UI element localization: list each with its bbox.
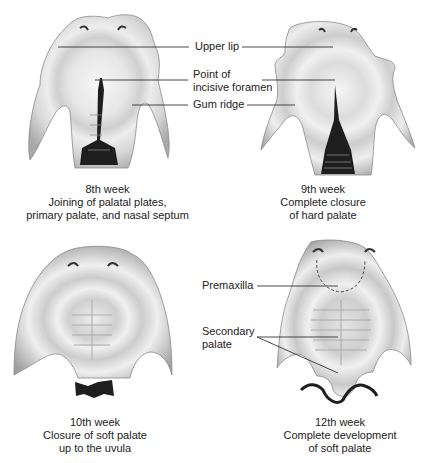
label-incisive-foramen: Point of incisive foramen — [193, 68, 272, 93]
panel-week-9: 9th week Complete closure of hard palate — [215, 0, 430, 230]
label-upper-lip: Upper lip — [195, 40, 239, 53]
label-gum-ridge: Gum ridge — [193, 98, 244, 111]
caption-week-10-title: 10th week — [0, 416, 190, 429]
caption-week-10-line3: up to the uvula — [0, 442, 190, 455]
label-secondary-palate: Secondary palate — [202, 325, 255, 350]
caption-week-12-line3: of soft palate — [255, 442, 425, 455]
panel-week-10: 10th week Closure of soft palate up to t… — [0, 230, 215, 463]
caption-week-12-line2: Complete development — [255, 429, 425, 442]
caption-week-10-line2: Closure of soft palate — [0, 429, 190, 442]
caption-week-8: 8th week Joining of palatal plates, prim… — [0, 183, 215, 222]
caption-week-12-title: 12th week — [255, 416, 425, 429]
label-incisive-foramen-line2: incisive foramen — [193, 81, 272, 94]
panel-week-8: 8th week Joining of palatal plates, prim… — [0, 0, 215, 230]
caption-week-9: 9th week Complete closure of hard palate — [233, 183, 413, 222]
label-premaxilla: Premaxilla — [202, 279, 253, 292]
label-secondary-palate-line2: palate — [202, 338, 255, 351]
caption-week-8-line2: Joining of palatal plates, — [0, 196, 215, 209]
label-incisive-foramen-line1: Point of — [193, 68, 272, 81]
caption-week-8-line3: primary palate, and nasal septum — [0, 209, 215, 222]
caption-week-9-line3: of hard palate — [233, 209, 413, 222]
caption-week-8-title: 8th week — [0, 183, 215, 196]
label-secondary-palate-line1: Secondary — [202, 325, 255, 338]
caption-week-9-title: 9th week — [233, 183, 413, 196]
caption-week-9-line2: Complete closure — [233, 196, 413, 209]
caption-week-10: 10th week Closure of soft palate up to t… — [0, 416, 190, 455]
caption-week-12: 12th week Complete development of soft p… — [255, 416, 425, 455]
